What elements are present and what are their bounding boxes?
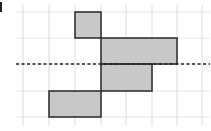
grid-figure: [0, 0, 211, 131]
shaded-cell-block: [75, 12, 101, 38]
shaded-cell-block: [101, 64, 152, 91]
shaded-cell-block: [101, 38, 177, 64]
shaded-shape: [23, 5, 202, 126]
